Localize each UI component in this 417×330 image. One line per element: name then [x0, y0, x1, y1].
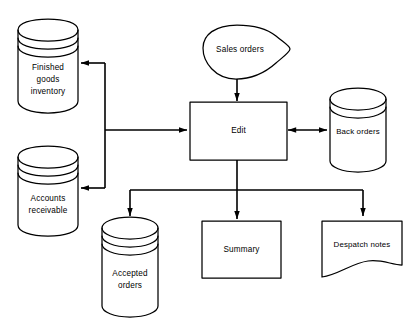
- despatch-notes-label: Despatch notes: [334, 240, 391, 249]
- flow-diagram-canvas: Finished goods inventory Accounts receiv…: [0, 0, 417, 330]
- node-accounts-receivable[interactable]: Accounts receivable: [18, 146, 78, 236]
- node-summary[interactable]: Summary: [202, 221, 281, 278]
- summary-label: Summary: [223, 245, 260, 254]
- edit-label: Edit: [231, 126, 246, 135]
- node-edit[interactable]: Edit: [190, 102, 287, 160]
- sales-orders-label: Sales orders: [216, 45, 264, 54]
- accepted-orders-label-line2: orders: [118, 281, 142, 290]
- back-orders-label: Back orders: [336, 127, 380, 136]
- accounts-receivable-label-line2: receivable: [29, 206, 68, 215]
- finished-goods-label-line1: Finished: [32, 63, 64, 72]
- diagram-svg: Finished goods inventory Accounts receiv…: [0, 0, 417, 330]
- accounts-receivable-label-line1: Accounts: [31, 194, 66, 203]
- node-finished-goods-inventory[interactable]: Finished goods inventory: [18, 19, 78, 113]
- node-sales-orders[interactable]: Sales orders: [203, 25, 290, 79]
- node-back-orders[interactable]: Back orders: [330, 88, 386, 172]
- accepted-orders-label-line1: Accepted: [112, 269, 148, 278]
- node-accepted-orders[interactable]: Accepted orders: [102, 217, 158, 317]
- node-despatch-notes[interactable]: Despatch notes: [322, 221, 402, 277]
- accepted-orders-cylinder-body: [102, 217, 158, 317]
- accounts-receivable-cylinder-body: [18, 146, 78, 236]
- finished-goods-label-line3: inventory: [31, 87, 66, 96]
- finished-goods-label-line2: goods: [36, 75, 59, 84]
